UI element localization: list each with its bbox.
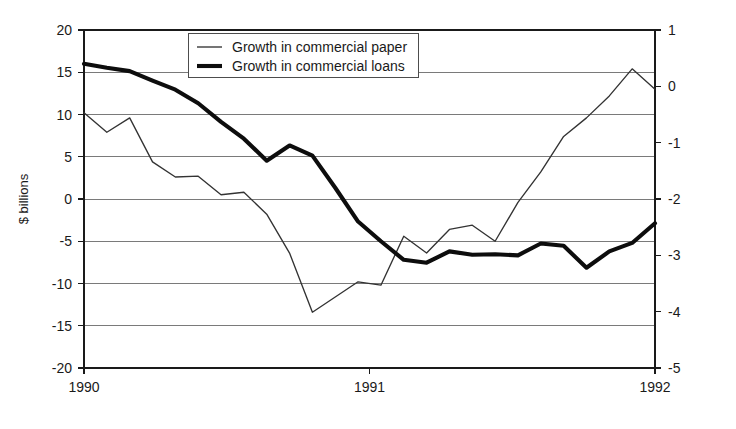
- x-axis-ticks: [84, 368, 655, 374]
- left-tick-label: 5: [64, 149, 72, 165]
- y-axis-title: $ billions: [16, 173, 31, 224]
- left-tick-label: -10: [52, 276, 72, 292]
- right-tick-label: -3: [668, 247, 681, 263]
- right-tick-label: -5: [668, 360, 681, 376]
- right-tick-label: 0: [668, 78, 676, 94]
- left-tick-label: -15: [52, 318, 72, 334]
- chart-container: 20 15 10 5 0 -5 -10 -15 -20 1 0 -1 -2 -3…: [0, 0, 736, 429]
- left-tick-label: -5: [60, 233, 73, 249]
- legend-label-commercial-loans: Growth in commercial loans: [232, 58, 405, 74]
- x-tick-label: 1991: [354, 379, 385, 395]
- right-tick-label: -1: [668, 135, 681, 151]
- left-axis-ticks: [78, 30, 84, 368]
- left-axis-tick-labels: 20 15 10 5 0 -5 -10 -15 -20: [52, 22, 72, 376]
- left-tick-label: 0: [64, 191, 72, 207]
- left-tick-label: 15: [56, 64, 72, 80]
- line-chart: 20 15 10 5 0 -5 -10 -15 -20 1 0 -1 -2 -3…: [0, 0, 736, 429]
- right-tick-label: -4: [668, 304, 681, 320]
- left-tick-label: 20: [56, 22, 72, 38]
- left-tick-label: -20: [52, 360, 72, 376]
- legend-label-commercial-paper: Growth in commercial paper: [232, 39, 407, 55]
- x-axis-tick-labels: 1990 1991 1992: [68, 379, 670, 395]
- right-tick-label: -2: [668, 191, 681, 207]
- x-tick-label: 1992: [639, 379, 670, 395]
- right-axis-tick-labels: 1 0 -1 -2 -3 -4 -5: [668, 22, 681, 376]
- right-axis-ticks: [655, 30, 661, 368]
- x-tick-label: 1990: [68, 379, 99, 395]
- legend: Growth in commercial paper Growth in com…: [188, 33, 418, 77]
- right-tick-label: 1: [668, 22, 676, 38]
- left-tick-label: 10: [56, 107, 72, 123]
